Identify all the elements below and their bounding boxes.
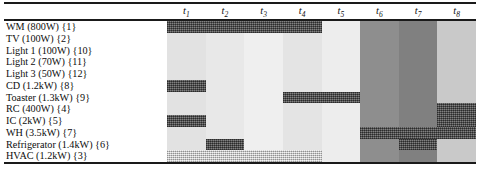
- time-slot-header-t1: t1: [167, 3, 206, 19]
- schedule-bar-ic-2: [437, 115, 476, 127]
- appliance-schedule-figure: t1t2t3t4t5t6t7t8 WM (800W) {1}TV (100W) …: [0, 0, 480, 170]
- appliance-label-light-1: Light 1 (100W) {10}: [6, 45, 166, 57]
- appliance-label-hvac: HVAC (1.2kW) {3}: [6, 150, 166, 162]
- appliance-label-cd: CD (1.2kW) {8}: [6, 80, 166, 92]
- time-slot-header-t2: t2: [206, 3, 245, 19]
- schedule-bar-wm-1: [167, 21, 322, 33]
- appliance-label-toaster: Toaster (1.3kW) {9}: [6, 92, 166, 104]
- schedule-column-t1: [167, 21, 206, 162]
- schedule-column-t6: [360, 21, 399, 162]
- time-slot-header-t5: t5: [322, 3, 361, 19]
- schedule-bar-refrigerator-1: [206, 139, 245, 151]
- appliance-label-rc: RC (400W) {4}: [6, 103, 166, 115]
- figure-caption: [6, 164, 476, 170]
- time-slot-header-t3: t3: [244, 3, 283, 19]
- time-slot-header-t8: t8: [437, 3, 476, 19]
- time-slot-header-row: t1t2t3t4t5t6t7t8: [0, 3, 480, 19]
- time-slot-header-index: 5: [340, 10, 344, 19]
- time-slot-header-index: 2: [225, 10, 229, 19]
- schedule-bar-wh-1: [360, 127, 476, 139]
- schedule-bar-ic-1: [167, 115, 206, 127]
- schedule-bar-cd-1: [167, 80, 206, 92]
- appliance-label-ic: IC (2kW) {5}: [6, 115, 166, 127]
- time-slot-header-index: 1: [186, 10, 190, 19]
- appliance-label-column: WM (800W) {1}TV (100W) {2}Light 1 (100W)…: [6, 21, 166, 162]
- schedule-column-t8: [437, 21, 476, 162]
- schedule-bar-rc-1: [437, 103, 476, 115]
- appliance-label-wh: WH (3.5kW) {7}: [6, 127, 166, 139]
- time-slot-header-index: 4: [302, 10, 306, 19]
- schedule-bar-hvac-1: [167, 150, 322, 162]
- appliance-label-light-2: Light 2 (70W) {11}: [6, 56, 166, 68]
- appliance-label-refrigerator: Refrigerator (1.4kW) {6}: [6, 139, 166, 151]
- time-slot-header-index: 3: [263, 10, 267, 19]
- time-slot-header-t4: t4: [283, 3, 322, 19]
- time-slot-header-index: 7: [418, 10, 422, 19]
- appliance-label-tv: TV (100W) {2}: [6, 33, 166, 45]
- time-slot-header-index: 6: [379, 10, 383, 19]
- schedule-grid: [167, 21, 476, 162]
- time-slot-header-index: 8: [456, 10, 460, 19]
- time-slot-header-t7: t7: [399, 3, 438, 19]
- appliance-label-light-3: Light 3 (50W) {12}: [6, 68, 166, 80]
- appliance-label-wm: WM (800W) {1}: [6, 21, 166, 33]
- schedule-column-t3: [244, 21, 283, 162]
- schedule-bar-toaster-1: [283, 92, 360, 104]
- schedule-bar-refrigerator-2: [399, 139, 438, 151]
- time-slot-header-t6: t6: [360, 3, 399, 19]
